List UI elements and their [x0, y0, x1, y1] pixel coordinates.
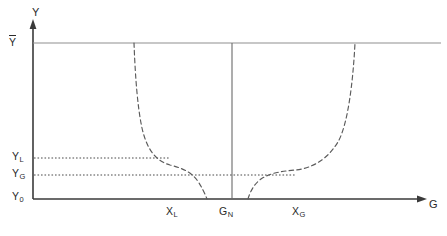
chart-container: Y Y YL YG Y0 XL GN XG G: [0, 0, 447, 236]
y-tick-yg-text: Y: [12, 167, 19, 179]
x-axis-arrow-icon: [417, 196, 427, 203]
y-tick-y0-text: Y: [12, 190, 19, 202]
y-tick-yl-subscript: L: [20, 155, 24, 164]
x-tick-xg-subscript: G: [300, 210, 306, 219]
y-tick-y0-subscript: 0: [20, 195, 24, 204]
x-axis-title: G: [429, 198, 438, 210]
y-tick-yl-text: Y: [12, 150, 19, 162]
y-tick-label-yl: YL: [12, 150, 23, 162]
x-tick-label-gn: GN: [219, 205, 233, 217]
x-tick-xg-text: X: [292, 205, 299, 217]
y-tick-label-ybar: Y: [9, 36, 16, 48]
y-tick-yg-subscript: G: [20, 172, 26, 181]
x-tick-gn-subscript: N: [228, 210, 233, 219]
y-tick-ybar-text: Y: [9, 36, 16, 48]
left-curve: [134, 43, 207, 199]
x-tick-label-xg: XG: [292, 205, 305, 217]
y-axis-title: Y: [32, 6, 39, 18]
right-curve: [248, 43, 355, 199]
chart-plot-area: [0, 0, 447, 236]
x-tick-xl-text: X: [166, 205, 173, 217]
x-tick-xl-subscript: L: [174, 210, 178, 219]
x-tick-gn-text: G: [219, 205, 227, 217]
y-axis-arrow-icon: [30, 19, 37, 29]
y-tick-label-yg: YG: [12, 167, 25, 179]
y-tick-label-y0: Y0: [12, 190, 23, 202]
x-tick-label-xl: XL: [166, 205, 177, 217]
